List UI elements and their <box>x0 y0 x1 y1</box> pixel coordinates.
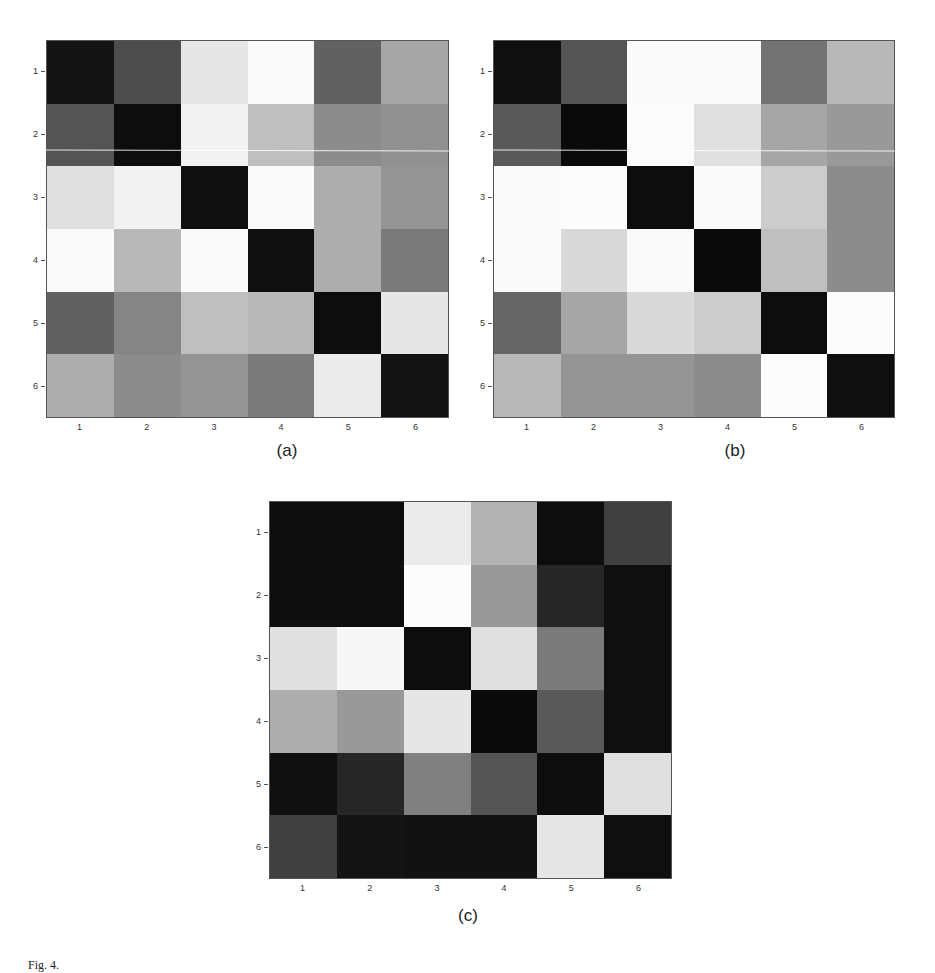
heatmap-cell-r1-c5: 0.05 <box>537 502 604 565</box>
heatmap-cell-r6-c6: 0.06 <box>604 815 671 878</box>
heatmap-cell-r6-c4: 0.48 <box>248 354 315 417</box>
heatmap-cell-r4-c2: 0.6 <box>337 690 404 753</box>
heatmap-cell-r6-c1: 0.72 <box>494 354 561 417</box>
heatmap-cell-r3-c2: 0.97 <box>337 627 404 690</box>
y-tick-label: 5 <box>247 779 261 789</box>
y-tick-label: 2 <box>471 129 485 139</box>
x-tick-label: 5 <box>564 883 578 893</box>
y-tick-label: 3 <box>24 192 38 202</box>
x-tick-label: 3 <box>430 883 444 893</box>
heatmap-cell-r2-c5: 0.65 <box>761 104 828 167</box>
heatmap-cell-r1-c1: 0.06 <box>494 41 561 104</box>
heatmap-cell-r6-c4: 0.55 <box>694 354 761 417</box>
heatmap-cell-r3-c6: 0.06 <box>604 627 671 690</box>
heatmap-cell-r3-c2: 0.99 <box>561 166 628 229</box>
heatmap-cell-r3-c6: 0.55 <box>827 166 894 229</box>
heatmap-cell-r1-c1: 0.05 <box>270 502 337 565</box>
heatmap-cell-r6-c1: 0.25 <box>270 815 337 878</box>
x-tick-label: 1 <box>296 883 310 893</box>
heatmap-cell-r4-c2: 0.72 <box>114 229 181 292</box>
heatmap-cell-r1-c2: 0.05 <box>337 502 404 565</box>
heatmap-cell-r3-c3: 0.06 <box>181 166 248 229</box>
heatmap-cell-r6-c2: 0.58 <box>561 354 628 417</box>
heatmap-cell-r3-c5: 0.8 <box>761 166 828 229</box>
heatmap-cell-r6-c5: 0.92 <box>314 354 381 417</box>
heatmap-cell-r1-c2: 0.33 <box>561 41 628 104</box>
heatmap-a: 0.080.30.90.980.380.650.330.050.950.750.… <box>46 40 449 418</box>
y-tick-label: 6 <box>247 842 261 852</box>
x-tick-label: 1 <box>73 422 87 432</box>
heatmap-cell-r3-c1: 0.98 <box>494 166 561 229</box>
heatmap-cell-r3-c4: 0.98 <box>694 166 761 229</box>
x-tick-label: 2 <box>587 422 601 432</box>
heatmap-cell-r4-c3: 0.98 <box>627 229 694 292</box>
heatmap-cell-r5-c6: 0.9 <box>381 292 448 355</box>
heatmap-cell-r4-c6: 0.06 <box>604 690 671 753</box>
y-tick-label: 5 <box>471 318 485 328</box>
heatmap-cell-r6-c1: 0.68 <box>47 354 114 417</box>
heatmap-cell-r5-c4: 0.33 <box>471 753 538 816</box>
heatmap-cell-r2-c5: 0.55 <box>314 104 381 167</box>
heatmap-cell-r6-c3: 0.07 <box>404 815 471 878</box>
heatmap-cell-r1-c6: 0.65 <box>381 41 448 104</box>
heatmap-grid: 0.050.050.920.70.050.250.050.050.990.60.… <box>270 502 671 878</box>
heatmap-c: 0.050.050.920.70.050.250.050.050.990.60.… <box>269 501 672 879</box>
heatmap-cell-r6-c6: 0.08 <box>381 354 448 417</box>
heatmap-b: 0.060.330.980.980.450.720.350.040.990.88… <box>493 40 895 418</box>
heatmap-cell-r2-c4: 0.88 <box>694 104 761 167</box>
heatmap-cell-r2-c5: 0.15 <box>537 565 604 628</box>
heatmap-cell-r2-c2: 0.05 <box>337 565 404 628</box>
heatmap-cell-r1-c2: 0.3 <box>114 41 181 104</box>
y-tick-label: 3 <box>471 192 485 202</box>
heatmap-cell-r2-c3: 0.95 <box>181 104 248 167</box>
heatmap-cell-r4-c3: 0.98 <box>181 229 248 292</box>
heatmap-cell-r3-c1: 0.88 <box>270 627 337 690</box>
heatmap-cell-r1-c4: 0.7 <box>471 502 538 565</box>
y-tick-label: 4 <box>24 255 38 265</box>
x-tick-label: 6 <box>408 422 422 432</box>
heatmap-cell-r1-c5: 0.38 <box>314 41 381 104</box>
heatmap-cell-r3-c6: 0.58 <box>381 166 448 229</box>
heatmap-cell-r4-c6: 0.48 <box>381 229 448 292</box>
heatmap-cell-r6-c6: 0.06 <box>827 354 894 417</box>
heatmap-cell-r5-c3: 0.5 <box>404 753 471 816</box>
heatmap-cell-r3-c1: 0.88 <box>47 166 114 229</box>
heatmap-grid: 0.080.30.90.980.380.650.330.050.950.750.… <box>47 41 448 417</box>
heatmap-cell-r2-c6: 0.6 <box>827 104 894 167</box>
y-tick-label: 6 <box>471 381 485 391</box>
heatmap-cell-r3-c3: 0.05 <box>404 627 471 690</box>
heatmap-cell-r4-c1: 0.68 <box>270 690 337 753</box>
subfigure-label-a: (a) <box>277 441 298 461</box>
heatmap-cell-r1-c3: 0.92 <box>404 502 471 565</box>
heatmap-cell-r2-c1: 0.35 <box>494 104 561 167</box>
x-tick-label: 2 <box>363 883 377 893</box>
x-tick-label: 6 <box>631 883 645 893</box>
y-tick-label: 2 <box>247 590 261 600</box>
figure-caption: Fig. 4. <box>28 958 59 973</box>
x-tick-label: 3 <box>207 422 221 432</box>
heatmap-cell-r3-c3: 0.05 <box>627 166 694 229</box>
y-tick-label: 3 <box>247 653 261 663</box>
heatmap-grid: 0.060.330.980.980.450.720.350.040.990.88… <box>494 41 894 417</box>
heatmap-cell-r3-c4: 0.98 <box>248 166 315 229</box>
heatmap-cell-r5-c5: 0.05 <box>761 292 828 355</box>
heatmap-cell-r2-c4: 0.75 <box>248 104 315 167</box>
heatmap-cell-r1-c5: 0.45 <box>761 41 828 104</box>
heatmap-cell-r6-c3: 0.58 <box>181 354 248 417</box>
y-tick-label: 1 <box>247 527 261 537</box>
x-tick-label: 6 <box>855 422 869 432</box>
heatmap-cell-r6-c5: 0.9 <box>537 815 604 878</box>
heatmap-cell-r6-c5: 0.99 <box>761 354 828 417</box>
heatmap-cell-r5-c1: 0.38 <box>47 292 114 355</box>
heatmap-cell-r5-c2: 0.15 <box>337 753 404 816</box>
heatmap-cell-r5-c3: 0.75 <box>181 292 248 355</box>
heatmap-cell-r4-c5: 0.75 <box>761 229 828 292</box>
heatmap-cell-r2-c2: 0.05 <box>114 104 181 167</box>
heatmap-cell-r4-c4: 0.06 <box>248 229 315 292</box>
y-tick-label: 5 <box>24 318 38 328</box>
heatmap-cell-r2-c3: 0.99 <box>404 565 471 628</box>
heatmap-cell-r1-c4: 0.98 <box>694 41 761 104</box>
y-tick-label: 1 <box>24 66 38 76</box>
heatmap-cell-r4-c1: 0.98 <box>494 229 561 292</box>
heatmap-cell-r5-c5: 0.05 <box>537 753 604 816</box>
